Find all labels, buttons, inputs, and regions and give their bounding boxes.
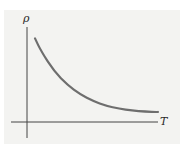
y-axis-label: ρ — [23, 13, 29, 24]
x-axis-label: T — [160, 116, 167, 127]
data-curve — [35, 38, 158, 112]
